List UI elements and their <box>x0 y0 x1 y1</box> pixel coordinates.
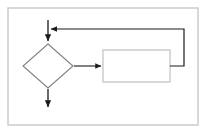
process-rectangle-node[interactable] <box>103 50 170 82</box>
diagram-canvas <box>0 0 211 134</box>
flowchart-diagram <box>0 0 211 134</box>
decision-diamond-node[interactable] <box>23 44 73 88</box>
